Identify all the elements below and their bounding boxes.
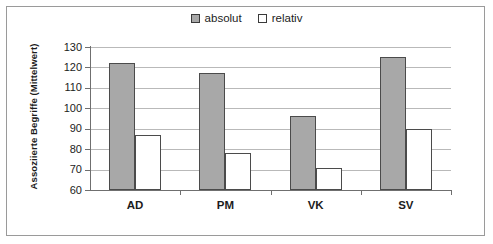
x-axis-category-labels: ADPMVKSV [90,200,451,218]
y-tick-label-90: 90 [56,123,82,134]
x-axis-category-label-PM: PM [180,200,270,212]
x-axis-category-label-SV: SV [361,200,451,212]
white-outlined-square-icon [258,14,267,23]
y-tick-label-130: 130 [56,42,82,53]
chart-screenshot: absolut relativ Assoziierte Begriffe (Mi… [0,0,493,244]
y-tick-label-60: 60 [56,185,82,196]
x-axis-category-label-VK: VK [271,200,361,212]
y-tick-label-120: 120 [56,62,82,73]
gray-filled-square-icon [191,14,200,23]
legend-label-relativ: relativ [272,13,303,25]
y-tick-100 [85,108,90,109]
x-axis-tick-PM [271,190,272,195]
gridline-130 [90,47,451,48]
bar-PM-absolut[interactable] [199,73,225,190]
y-tick-70 [85,170,90,171]
plot-area [90,47,451,190]
y-tick-90 [85,129,90,130]
legend-entry-relativ[interactable]: relativ [258,13,303,25]
y-axis-line [90,46,91,191]
y-axis-title-text: Assoziierte Begriffe (Mittelwert) [29,43,40,189]
y-tick-80 [85,149,90,150]
y-tick-60 [85,190,90,191]
bar-SV-absolut[interactable] [380,57,406,190]
bar-AD-relativ[interactable] [135,135,161,190]
y-axis-tick-labels: 13012011010090807060 [54,0,82,244]
x-axis-tick-SV [451,190,452,195]
y-tick-label-70: 70 [56,164,82,175]
bar-VK-absolut[interactable] [290,116,316,190]
y-tick-label-110: 110 [56,82,82,93]
bar-SV-relativ[interactable] [406,129,432,190]
y-tick-label-80: 80 [56,144,82,155]
bar-VK-relativ[interactable] [316,168,342,190]
x-axis-tick-AD [180,190,181,195]
y-tick-120 [85,67,90,68]
x-axis-tick-VK [361,190,362,195]
bar-AD-absolut[interactable] [109,63,135,190]
legend-entry-absolut[interactable]: absolut [191,13,242,25]
y-tick-130 [85,47,90,48]
y-tick-110 [85,88,90,89]
y-axis-title: Assoziierte Begriffe (Mittelwert) [26,36,42,196]
x-axis-category-label-AD: AD [90,200,180,212]
y-tick-label-100: 100 [56,103,82,114]
bar-PM-relativ[interactable] [225,153,251,190]
legend-label-absolut: absolut [205,13,242,25]
